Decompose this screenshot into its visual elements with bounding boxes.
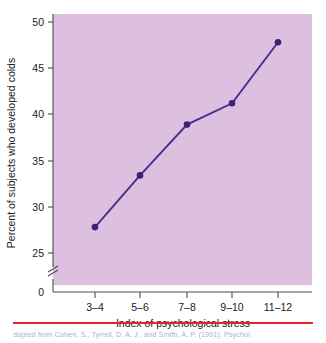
y-axis-ticks [48, 22, 53, 253]
line-chart: 50 45 40 35 30 25 0 3–4 5–6 7–8 9–10 11–… [0, 0, 326, 343]
y-tick-label-45: 45 [32, 62, 44, 74]
y-tick-label-50: 50 [32, 16, 44, 28]
y-axis-title: Percent of subjects who developed colds [5, 58, 17, 248]
x-axis-tick-labels: 3–4 5–6 7–8 9–10 11–12 [86, 301, 292, 313]
figure-container: 50 45 40 35 30 25 0 3–4 5–6 7–8 9–10 11–… [0, 0, 326, 343]
y-axis-tick-labels: 50 45 40 35 30 25 0 [32, 16, 44, 298]
y-tick-label-35: 35 [32, 155, 44, 167]
x-tick-label-1: 5–6 [131, 301, 149, 313]
x-tick-label-3: 9–10 [220, 301, 244, 313]
x-tick-label-2: 7–8 [178, 301, 196, 313]
y-tick-label-25: 25 [32, 247, 44, 259]
y-tick-label-40: 40 [32, 108, 44, 120]
x-tick-label-0: 3–4 [86, 301, 104, 313]
data-point-0 [92, 224, 99, 231]
y-tick-label-0: 0 [38, 286, 44, 298]
source-divider-rule [13, 322, 313, 324]
y-tick-label-30: 30 [32, 201, 44, 213]
data-point-3 [229, 100, 236, 107]
source-caption: dapted from Cohen, S., Tyrrell, D. A. J.… [13, 330, 319, 339]
x-tick-label-4: 11–12 [264, 301, 293, 313]
x-axis-ticks [95, 292, 278, 298]
data-point-2 [184, 121, 191, 128]
plot-area-background [53, 14, 312, 285]
data-point-1 [137, 172, 144, 179]
data-point-4 [275, 39, 282, 46]
